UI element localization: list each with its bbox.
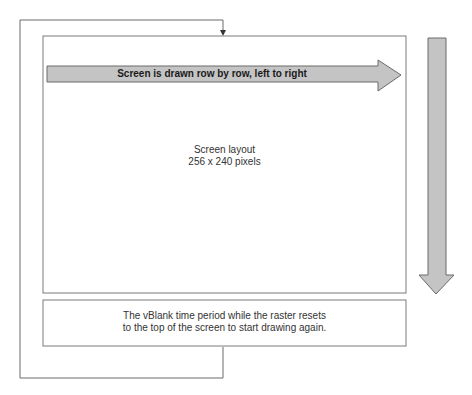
- vblank-line-1: The vBlank time period while the raster …: [43, 310, 406, 322]
- vertical-arrow-icon: [419, 38, 454, 294]
- screen-title: Screen layout: [43, 144, 406, 156]
- vblank-line-2: to the top of the screen to start drawin…: [43, 322, 406, 334]
- vblank-label: The vBlank time period while the raster …: [43, 310, 406, 334]
- diagram-canvas: [0, 0, 472, 395]
- screen-size: 256 x 240 pixels: [43, 156, 406, 168]
- screen-label: Screen layout 256 x 240 pixels: [43, 144, 406, 168]
- feedback-arrowhead-icon: [220, 30, 226, 36]
- horizontal-arrow-label: Screen is drawn row by row, left to righ…: [47, 67, 377, 81]
